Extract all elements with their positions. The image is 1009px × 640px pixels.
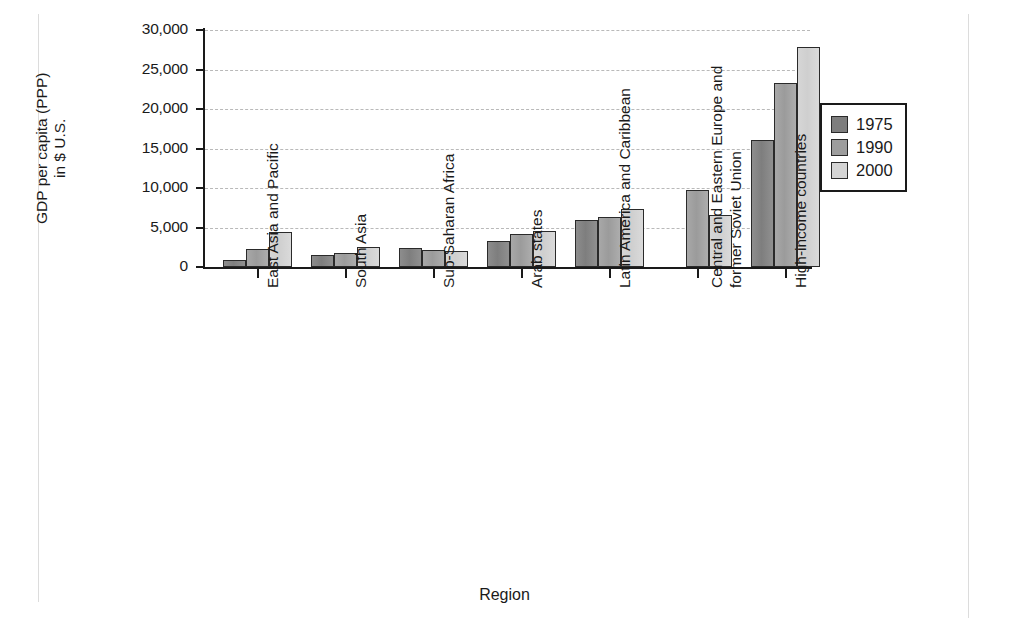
category-label-5: Central and Eastern Europe andformer Sov…	[708, 66, 745, 288]
y-tick-label-0: 0	[100, 257, 188, 275]
legend-item-1975: 1975	[831, 113, 893, 136]
x-axis-title: Region	[0, 586, 1009, 604]
x-tick-2	[433, 269, 435, 278]
legend-swatch-1990-icon	[831, 139, 848, 156]
y-tick-label-15000: 15,000	[100, 139, 188, 157]
category-label-2: Sub-Saharan Africa	[440, 154, 459, 288]
gridline-30000	[205, 30, 810, 31]
category-label-1: South Asia	[352, 214, 371, 288]
legend-label-2000: 2000	[856, 161, 893, 180]
legend-swatch-2000-icon	[831, 162, 848, 179]
x-tick-5	[697, 269, 699, 278]
x-tick-1	[345, 269, 347, 278]
x-tick-0	[257, 269, 259, 278]
x-tick-3	[521, 269, 523, 278]
category-label-line: Central and Eastern Europe and	[708, 66, 727, 288]
category-label-line: High-income countries	[792, 134, 811, 288]
gdp-per-capita-bar-chart: GDP per capita (PPP) in $ U.S. 05,00010,…	[0, 0, 1009, 640]
legend-label-1975: 1975	[856, 115, 893, 134]
bar	[686, 190, 709, 267]
x-tick-6	[785, 269, 787, 278]
legend-item-2000: 2000	[831, 159, 893, 182]
bar	[487, 241, 510, 267]
y-tick-label-25000: 25,000	[100, 60, 188, 78]
category-label-4: Latin America and Caribbean	[616, 88, 635, 288]
y-tick-label-10000: 10,000	[100, 178, 188, 196]
legend: 1975 1990 2000	[820, 103, 907, 192]
category-label-line: South Asia	[352, 214, 371, 288]
bar	[311, 255, 334, 267]
y-axis-title-line-2: in $ U.S.	[51, 33, 69, 263]
category-label-line: Sub-Saharan Africa	[440, 154, 459, 288]
category-label-line: former Soviet Union	[726, 66, 745, 288]
category-label-line: Latin America and Caribbean	[616, 88, 635, 288]
bar	[223, 260, 246, 268]
bar	[751, 140, 774, 267]
category-label-line: Arab states	[528, 210, 547, 288]
bar	[575, 220, 598, 267]
y-axis-title: GDP per capita (PPP) in $ U.S.	[33, 33, 70, 263]
y-axis-title-line-1: GDP per capita (PPP)	[33, 33, 51, 263]
category-label-0: East Asia and Pacific	[264, 143, 283, 288]
legend-label-1990: 1990	[856, 138, 893, 157]
x-tick-4	[609, 269, 611, 278]
y-tick-label-5000: 5,000	[100, 218, 188, 236]
legend-item-1990: 1990	[831, 136, 893, 159]
category-label-6: High-income countries	[792, 134, 811, 288]
bar	[399, 248, 422, 267]
category-label-3: Arab states	[528, 210, 547, 288]
y-tick-label-30000: 30,000	[100, 20, 188, 38]
y-tick-label-20000: 20,000	[100, 99, 188, 117]
category-label-line: East Asia and Pacific	[264, 143, 283, 288]
legend-swatch-1975-icon	[831, 116, 848, 133]
